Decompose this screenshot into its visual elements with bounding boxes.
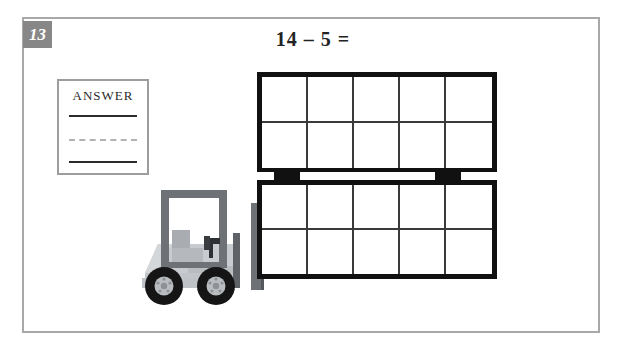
forklift-fork: [233, 233, 240, 288]
equation-text: 14 – 5 =: [258, 28, 368, 51]
ten-frame-cell[interactable]: [308, 230, 354, 275]
forklift-front-wheel: [197, 267, 235, 305]
ten-frame-cell[interactable]: [262, 185, 308, 230]
answer-box[interactable]: ANSWER: [57, 79, 149, 175]
ten-frame-cell[interactable]: [354, 230, 400, 275]
ten-frame-cell[interactable]: [354, 123, 400, 169]
answer-label: ANSWER: [59, 88, 147, 104]
ten-frame-cell[interactable]: [262, 77, 308, 123]
ten-frame-cell[interactable]: [400, 230, 446, 275]
worksheet-page: 13 14 – 5 = ANSWER: [0, 0, 630, 358]
ten-frame-cell[interactable]: [446, 77, 492, 123]
ten-frame-cell[interactable]: [400, 185, 446, 230]
ten-frame-cell[interactable]: [400, 123, 446, 169]
bottom-ten-frame: [257, 180, 497, 279]
pallet-block: [435, 172, 461, 180]
answer-writing-line-middle-dashed: [69, 139, 137, 141]
ten-frame-cell[interactable]: [446, 185, 492, 230]
answer-writing-line-bottom: [69, 161, 137, 163]
ten-frame-cell[interactable]: [446, 230, 492, 275]
ten-frame-cell[interactable]: [308, 77, 354, 123]
ten-frame-cell[interactable]: [308, 123, 354, 169]
pallet-bar: [257, 172, 497, 180]
ten-frame-cell[interactable]: [400, 77, 446, 123]
ten-frame-cell[interactable]: [308, 185, 354, 230]
top-ten-frame: [257, 72, 497, 173]
answer-writing-line-top: [69, 115, 137, 117]
forklift-illustration: [128, 178, 278, 308]
ten-frame-cell[interactable]: [262, 123, 308, 169]
pallet-block: [274, 172, 300, 180]
ten-frame-cell[interactable]: [354, 77, 400, 123]
ten-frame-cell[interactable]: [446, 123, 492, 169]
forklift-rear-wheel: [145, 267, 183, 305]
ten-frame-cell[interactable]: [354, 185, 400, 230]
problem-number-badge: 13: [23, 21, 52, 48]
ten-frame-cell[interactable]: [262, 230, 308, 275]
